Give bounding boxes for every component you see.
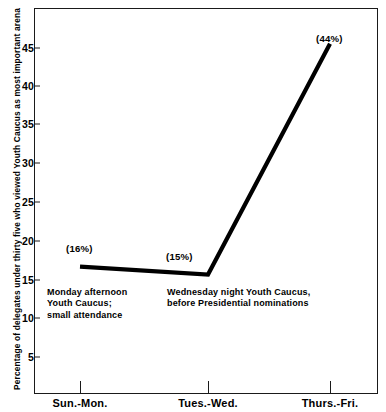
y-axis-ticks: 45 40 35 30 25 20 15 10 5: [0, 0, 34, 412]
y-tick-label-45: 45: [12, 42, 34, 54]
x-tick-mark-tues-wed: [208, 381, 209, 394]
y-tick-label-35: 35: [12, 118, 34, 130]
x-tick-label-thurs-fri: Thurs.-Fri.: [302, 397, 359, 409]
annotation-line: Monday afternoon: [47, 287, 127, 298]
y-tick-label-10: 10: [12, 312, 34, 324]
y-tick-label-20: 20: [12, 235, 34, 247]
point-label-thurs-fri: (44%): [316, 33, 343, 44]
annotation-monday-caucus: Monday afternoon Youth Caucus; small att…: [47, 287, 127, 321]
annotation-line: Youth Caucus;: [47, 298, 127, 309]
line-chart: Percentage of delegates under thirty fiv…: [0, 0, 386, 412]
annotation-wednesday-caucus: Wednesday night Youth Caucus, before Pre…: [167, 287, 310, 310]
x-tick-mark-sun-mon: [80, 381, 81, 394]
point-label-sun-mon: (16%): [66, 243, 93, 254]
y-tick-label-30: 30: [12, 157, 34, 169]
point-label-tues-wed: (15%): [166, 251, 193, 262]
annotation-line: before Presidential nominations: [167, 298, 310, 309]
y-tick-label-40: 40: [12, 80, 34, 92]
plot-area-frame: [34, 8, 378, 394]
annotation-line: Wednesday night Youth Caucus,: [167, 287, 310, 298]
y-tick-label-15: 15: [12, 274, 34, 286]
y-tick-label-5: 5: [12, 351, 34, 363]
x-tick-label-tues-wed: Tues.-Wed.: [178, 397, 238, 409]
annotation-line: small attendance: [47, 310, 127, 321]
y-tick-label-25: 25: [12, 196, 34, 208]
x-tick-mark-thurs-fri: [330, 381, 331, 394]
x-tick-label-sun-mon: Sun.-Mon.: [53, 397, 108, 409]
